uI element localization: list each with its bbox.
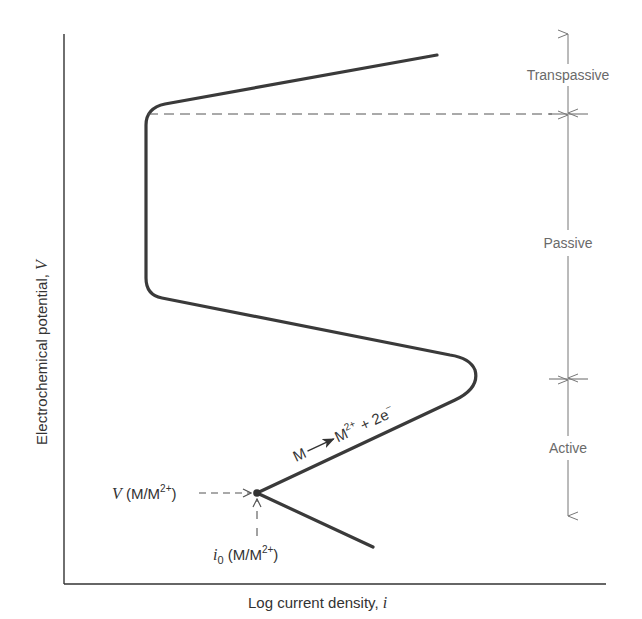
exchange-current-label: i0 (M/M2+) [213,544,278,566]
exchange-current-annotation: i0 (M/M2+) [213,499,278,566]
reaction-arrow [307,439,333,451]
polarization-diagram: Log current density, i Electrochemical p… [0,0,642,619]
reaction-lhs: M [290,444,309,465]
equilibrium-potential-annotation: V (M/M2+) [112,483,251,502]
region-label-transpassive: Transpassive [527,67,610,83]
region-label-active: Active [549,440,587,456]
x-axis-label: Log current density, i [248,594,387,611]
equilibrium-potential-label: V (M/M2+) [112,483,177,502]
region-label-passive: Passive [543,235,592,251]
y-axis-label: Electrochemical potential, V [33,258,50,445]
equilibrium-point [253,489,261,497]
reaction-rhs: M2+ + 2e− [331,401,397,445]
reaction-label: M M2+ + 2e− [289,401,396,465]
region-indicators: Transpassive Passive Active [527,34,610,516]
polarization-curve [146,55,476,547]
